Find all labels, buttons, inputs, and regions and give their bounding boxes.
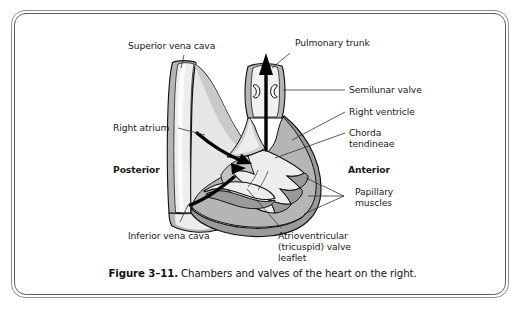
label-atrioventricular-valve-line1: Atrioventricular: [278, 230, 348, 241]
label-atrioventricular-valve-line3: leaflet: [278, 252, 306, 263]
label-inferior-vena-cava: Inferior vena cava: [128, 230, 209, 241]
label-superior-vena-cava: Superior vena cava: [128, 40, 215, 51]
heart-body: [167, 53, 321, 236]
label-pulmonary-trunk: Pulmonary trunk: [295, 37, 370, 48]
figure-caption-text: Chambers and valves of the heart on the …: [181, 268, 416, 279]
label-right-ventricle: Right ventricle: [349, 106, 415, 117]
label-right-atrium: Right atrium: [113, 122, 169, 133]
figure-number: Figure 3–11.: [108, 268, 178, 279]
label-chorda-tendineae-line1: Chorda: [349, 127, 381, 138]
label-posterior: Posterior: [113, 164, 160, 175]
figure-caption: Figure 3–11. Chambers and valves of the …: [0, 268, 525, 279]
label-semilunar-valve: Semilunar valve: [349, 84, 422, 95]
label-papillary-muscles-line1: Papillary: [355, 186, 393, 197]
label-papillary-muscles-line2: muscles: [355, 197, 392, 208]
label-chorda-tendineae-line2: tendineae: [349, 138, 394, 149]
label-atrioventricular-valve-line2: (tricuspid) valve: [278, 241, 351, 252]
figure-page: Superior vena cava Pulmonary trunk Semil…: [0, 0, 525, 321]
label-anterior: Anterior: [348, 164, 390, 175]
